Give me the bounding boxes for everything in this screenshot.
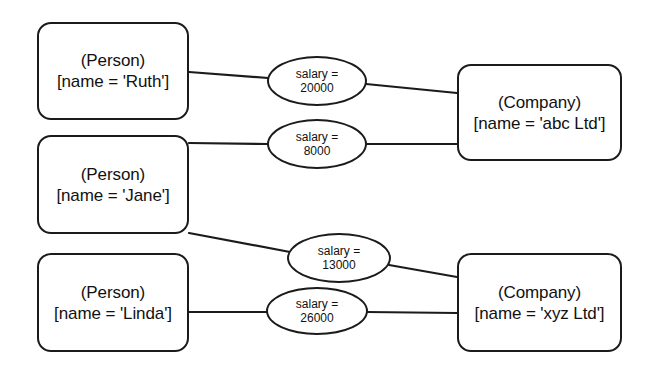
edge-label-attribute: salary = — [296, 67, 338, 81]
edge-label-salary-20000[interactable]: salary = 20000 — [267, 56, 367, 106]
edge-label-attribute: salary = — [296, 130, 338, 144]
edge-line-jane-to-salary13000 — [189, 233, 290, 252]
node-type-label: (Company) — [498, 92, 581, 113]
node-company-abc[interactable]: (Company) [name = 'abc Ltd'] — [457, 64, 622, 161]
node-type-label: (Person) — [81, 282, 145, 303]
edge-label-value: 8000 — [304, 144, 331, 158]
edge-label-attribute: salary = — [318, 244, 360, 258]
node-type-label: (Person) — [81, 164, 145, 185]
node-attribute-label: [name = 'abc Ltd'] — [474, 113, 606, 134]
node-person-jane[interactable]: (Person) [name = 'Jane'] — [37, 135, 189, 234]
edge-line-salary26000-to-xyz — [367, 312, 457, 313]
node-attribute-label: [name = 'Linda'] — [54, 303, 172, 324]
node-attribute-label: [name = 'Jane'] — [56, 185, 169, 206]
node-type-label: (Person) — [81, 50, 145, 71]
edge-line-jane-to-salary8000 — [189, 143, 268, 144]
edge-label-salary-26000[interactable]: salary = 26000 — [266, 287, 368, 335]
diagram-canvas: (Person) [name = 'Ruth'] (Person) [name … — [0, 0, 648, 374]
node-person-ruth[interactable]: (Person) [name = 'Ruth'] — [37, 22, 189, 120]
edge-line-ruth-to-salary20000 — [189, 72, 268, 78]
edge-label-value: 13000 — [322, 258, 355, 272]
edge-label-value: 20000 — [300, 81, 333, 95]
node-person-linda[interactable]: (Person) [name = 'Linda'] — [37, 253, 189, 352]
edge-line-salary20000-to-abc — [366, 84, 457, 93]
node-attribute-label: [name = 'Ruth'] — [57, 71, 169, 92]
edge-line-salary13000-to-xyz — [389, 265, 457, 277]
edge-label-attribute: salary = — [296, 297, 338, 311]
node-attribute-label: [name = 'xyz Ltd'] — [475, 303, 605, 324]
node-company-xyz[interactable]: (Company) [name = 'xyz Ltd'] — [457, 253, 622, 352]
edge-label-salary-8000[interactable]: salary = 8000 — [267, 119, 367, 169]
node-type-label: (Company) — [498, 282, 581, 303]
edge-label-salary-13000[interactable]: salary = 13000 — [287, 233, 391, 283]
edge-label-value: 26000 — [300, 311, 333, 325]
